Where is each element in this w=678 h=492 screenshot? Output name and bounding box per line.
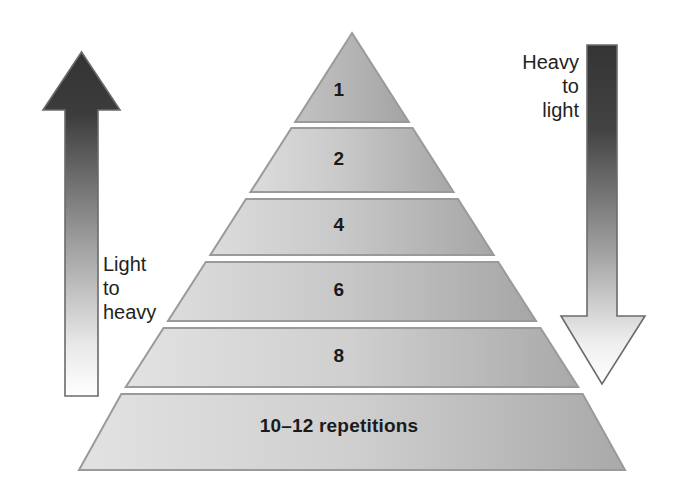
down-arrow-caption-line-3: light	[522, 98, 579, 122]
down-arrow-caption-line-1: Heavy	[522, 50, 579, 74]
pyramid-diagram-canvas: 1 2 4 6 8 10–12 repetitions Light to hea…	[0, 0, 678, 492]
up-arrow-caption-line-2: to	[103, 276, 156, 300]
up-arrow-caption: Light to heavy	[103, 252, 156, 324]
up-arrow-caption-line-1: Light	[103, 252, 156, 276]
pyramid-band-8	[126, 328, 578, 387]
pyramid-band-2	[251, 128, 454, 192]
down-arrow-caption: Heavy to light	[522, 50, 579, 122]
pyramid-band-6	[168, 262, 536, 321]
up-arrow-shape	[43, 52, 120, 396]
pyramid-band-4	[210, 199, 493, 255]
pyramid-band-1	[295, 33, 409, 122]
up-arrow	[43, 52, 120, 396]
down-arrow-caption-line-2: to	[522, 74, 579, 98]
up-arrow-caption-line-3: heavy	[103, 300, 156, 324]
pyramid-band-base	[79, 394, 625, 470]
